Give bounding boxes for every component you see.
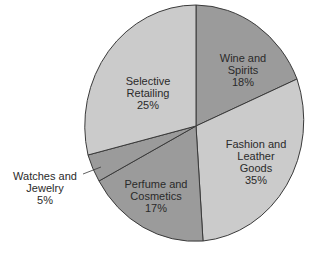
pie-chart — [0, 0, 323, 257]
label-fashion-and-leather-goods: Fashion and Leather Goods 35% — [220, 138, 292, 186]
label-perfume-and-cosmetics: Perfume and Cosmetics 17% — [118, 178, 194, 214]
label-selective-retailing: Selective Retailing 25% — [116, 75, 180, 111]
label-watches-and-jewelry: Watches and Jewelry 5% — [10, 170, 80, 206]
label-wine-and-spirits: Wine and Spirits 18% — [214, 52, 272, 88]
